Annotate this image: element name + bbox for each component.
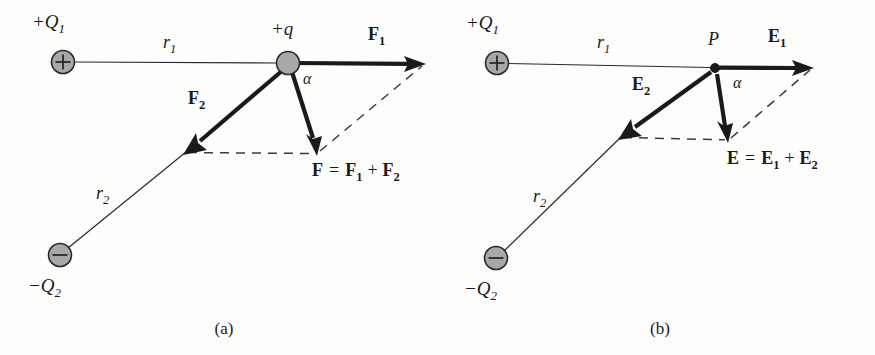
panel-b-dashed-horizontal [623, 138, 725, 140]
panel-b-label-alpha: α [733, 74, 742, 91]
panel-a-test-charge-circle [277, 52, 300, 75]
panel-b-r2-line [504, 137, 621, 251]
panel-b-label-resultant: E=E1+E2 [727, 148, 818, 172]
physics-figure: +Q1 −Q2 +q r1 r2 F1 F2 α F=F1+F2 (a) [0, 0, 875, 355]
panel-b-field-point [711, 64, 720, 73]
panel-b-label-q2: −Q2 [464, 278, 498, 303]
panel-a-label-r1: r1 [163, 32, 176, 56]
panel-a-label-alpha: α [303, 70, 312, 87]
panel-a-label-q1: +Q1 [32, 11, 65, 36]
panel-a-label-q2: −Q2 [28, 275, 62, 300]
panel-b-r1-line [508, 64, 710, 68]
panel-b-vector-e2 [635, 72, 711, 127]
panel-b-caption: (b) [650, 319, 670, 338]
panel-b-label-r2: r2 [533, 186, 546, 210]
panel-a-label-f2: F2 [188, 88, 205, 112]
panel-a-dashed-diagonal [320, 66, 422, 151]
panel-b-vector-e-resultant [717, 74, 725, 126]
panel-b-label-field-point: P [707, 29, 719, 49]
panel-a-label-r2: r2 [96, 183, 109, 207]
panel-b-label-e1: E1 [768, 26, 786, 50]
panel-a-dashed-horizontal [188, 153, 314, 154]
panel-b-charge-q1 [486, 52, 509, 75]
panel-a-vector-f2 [200, 70, 283, 141]
panel-a-caption: (a) [215, 319, 234, 338]
panel-b-label-e2: E2 [632, 74, 650, 98]
panel-a: +Q1 −Q2 +q r1 r2 F1 F2 α F=F1+F2 (a) [28, 11, 426, 338]
panel-a-charge-q1 [52, 51, 75, 74]
panel-a-test-charge-q [277, 52, 300, 75]
panel-b: +Q1 −Q2 P r1 r2 E1 E2 α E=E1+E2 (b) [464, 12, 818, 338]
panel-a-label-resultant: F=F1+F2 [312, 160, 400, 184]
superposition-diagram: +Q1 −Q2 +q r1 r2 F1 F2 α F=F1+F2 (a) [0, 0, 875, 355]
panel-a-r2-line [68, 152, 186, 248]
panel-b-label-r1: r1 [597, 32, 610, 56]
panel-a-r1-line [74, 62, 278, 63]
panel-a-charge-q2 [49, 244, 72, 267]
panel-a-label-test-charge: +q [271, 18, 294, 39]
panel-b-label-q1: +Q1 [466, 12, 499, 37]
panel-b-dashed-diagonal [731, 70, 810, 138]
panel-a-vector-f1 [294, 63, 408, 64]
panel-b-charge-q2 [485, 247, 508, 270]
panel-a-label-f1: F1 [368, 24, 385, 48]
